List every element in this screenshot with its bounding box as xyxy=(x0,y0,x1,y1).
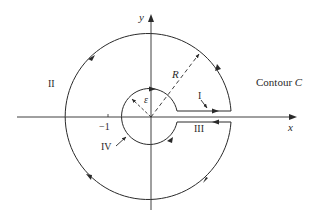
radius-epsilon-line xyxy=(132,99,151,117)
x-axis-label: x xyxy=(287,121,293,133)
arrow-icon-lower-line xyxy=(212,120,219,125)
radius-epsilon-label: ε xyxy=(144,94,148,105)
radius-r-label: R xyxy=(171,68,179,80)
radius-r-line xyxy=(151,54,199,117)
contour-title-variable: C xyxy=(295,76,303,88)
pointer-segment-IV xyxy=(116,137,126,146)
contour-title-text: Contour xyxy=(256,76,295,88)
inner-circle-path xyxy=(122,88,177,144)
segment-label-III: III xyxy=(194,123,204,134)
arrow-icon-upper-line xyxy=(212,109,219,114)
x-axis-arrow-icon xyxy=(289,114,297,120)
y-axis-arrow-icon xyxy=(148,14,154,22)
segment-label-II: II xyxy=(48,78,55,89)
keyhole-contour-diagram: y x −1 R ε I II III IV Contour C xyxy=(0,0,315,218)
segment-label-IV: IV xyxy=(101,141,112,152)
arrow-icon-inner-top xyxy=(149,87,156,92)
contour-title: Contour C xyxy=(256,76,303,88)
segment-label-I: I xyxy=(198,90,201,101)
pointer-segment-I xyxy=(201,100,207,108)
y-axis-label: y xyxy=(138,11,144,23)
arrow-icon-outer-upper-right xyxy=(215,64,221,71)
arrow-icon-outer-lower-left xyxy=(86,174,92,180)
tick-label-minus-one: −1 xyxy=(99,121,110,132)
